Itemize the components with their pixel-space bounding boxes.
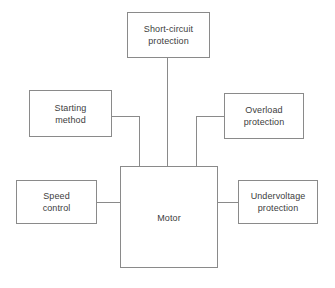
node-starting-method-label: Starting method bbox=[55, 102, 87, 126]
node-overload-protection: Overload protection bbox=[224, 93, 304, 139]
node-undervoltage-protection: Undervoltage protection bbox=[238, 180, 318, 224]
connector-short-circuit-to-motor bbox=[167, 58, 168, 167]
connector-overload-to-motor-vertical bbox=[196, 116, 197, 167]
node-overload-protection-label: Overload protection bbox=[244, 104, 285, 128]
connector-starting-method-to-motor-horizontal bbox=[112, 116, 140, 117]
node-speed-control: Speed control bbox=[16, 180, 97, 224]
node-starting-method: Starting method bbox=[29, 90, 112, 137]
node-motor-label: Motor bbox=[157, 212, 181, 224]
connector-overload-to-motor-horizontal bbox=[196, 116, 225, 117]
node-undervoltage-protection-label: Undervoltage protection bbox=[251, 190, 306, 214]
node-speed-control-label: Speed control bbox=[43, 190, 71, 214]
connector-motor-to-undervoltage bbox=[218, 202, 239, 203]
node-motor: Motor bbox=[120, 166, 218, 268]
diagram-canvas: Short-circuit protection Starting method… bbox=[0, 0, 335, 288]
connector-speed-control-to-motor bbox=[97, 202, 121, 203]
connector-starting-method-to-motor-vertical bbox=[139, 116, 140, 167]
node-short-circuit-protection-label: Short-circuit protection bbox=[144, 23, 193, 47]
node-short-circuit-protection: Short-circuit protection bbox=[127, 12, 210, 58]
